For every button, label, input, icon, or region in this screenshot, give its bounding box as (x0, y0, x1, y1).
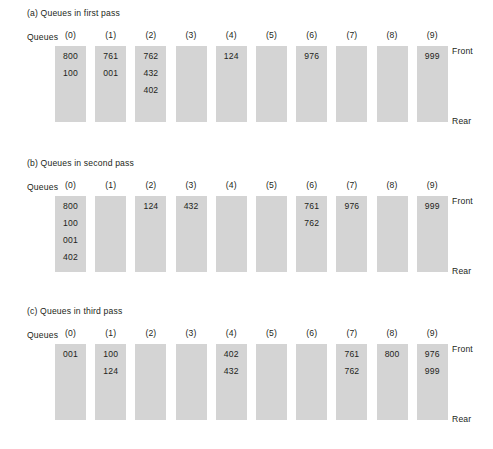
queue-column: (0)800100 (55, 28, 86, 122)
queue-column: (1) (95, 178, 126, 272)
queue-column-header: (5) (256, 178, 287, 196)
panel-caption-c: (c) Queues in third pass (27, 306, 122, 316)
queue-item: 999 (417, 363, 448, 380)
queue-bar (256, 344, 287, 420)
queue-column-header: (3) (176, 178, 207, 196)
queue-column: (4)402432 (216, 326, 247, 420)
queue-bar: 402432 (216, 344, 247, 420)
rear-label-c: Rear (452, 414, 471, 424)
queue-item: 432 (176, 198, 207, 215)
queue-bar (176, 344, 207, 420)
queue-column-header: (0) (55, 326, 86, 344)
queue-bar: 001 (55, 344, 86, 420)
queue-column-header: (2) (135, 326, 166, 344)
queue-column: (9)999 (417, 28, 448, 122)
queue-bar: 761001 (95, 46, 126, 122)
queue-column: (3) (176, 28, 207, 122)
front-label-b: Front (452, 196, 473, 206)
queue-row-c: (0)001(1)100124(2)(3)(4)402432(5)(6)(7)7… (55, 326, 447, 436)
queue-item: 402 (55, 249, 86, 266)
queue-column: (7)976 (336, 178, 367, 272)
queue-column: (7) (336, 28, 367, 122)
queue-item: 761 (95, 48, 126, 65)
queue-column: (8) (377, 28, 408, 122)
queue-column-header: (0) (55, 28, 86, 46)
queue-item: 762 (336, 363, 367, 380)
queue-column: (8) (377, 178, 408, 272)
queue-bar (135, 344, 166, 420)
queue-bar (256, 46, 287, 122)
queue-column-header: (7) (336, 28, 367, 46)
queue-column-header: (5) (256, 326, 287, 344)
queue-column-header: (9) (417, 326, 448, 344)
queue-column-header: (8) (377, 28, 408, 46)
queue-column: (5) (256, 178, 287, 272)
queue-column: (2) (135, 326, 166, 420)
radix-sort-queues-figure: (a) Queues in first pass Queues (0)80010… (0, 0, 493, 449)
queue-column: (3) (176, 326, 207, 420)
queue-item: 432 (135, 65, 166, 82)
row-label-b: Queues (27, 182, 58, 192)
panel-caption-a: (a) Queues in first pass (27, 8, 120, 18)
queue-item: 761 (296, 198, 327, 215)
queue-bar: 800100 (55, 46, 86, 122)
queue-column-header: (3) (176, 28, 207, 46)
queue-item: 124 (216, 48, 247, 65)
queue-item: 402 (135, 82, 166, 99)
queue-bar: 124 (216, 46, 247, 122)
queue-column: (1)761001 (95, 28, 126, 122)
rear-label-b: Rear (452, 266, 471, 276)
queue-item: 100 (55, 65, 86, 82)
queue-column: (4) (216, 178, 247, 272)
queue-item: 001 (55, 232, 86, 249)
queue-bar: 800 (377, 344, 408, 420)
queue-column-header: (7) (336, 326, 367, 344)
rear-label-a: Rear (452, 116, 471, 126)
queue-column-header: (4) (216, 326, 247, 344)
queue-bar (95, 196, 126, 272)
queue-bar: 761762 (336, 344, 367, 420)
queue-item: 402 (216, 346, 247, 363)
queue-bar (216, 196, 247, 272)
queue-column-header: (2) (135, 28, 166, 46)
queue-bar: 999 (417, 196, 448, 272)
queue-item: 976 (417, 346, 448, 363)
queue-column: (6) (296, 326, 327, 420)
queue-column-header: (1) (95, 326, 126, 344)
queue-bar: 999 (417, 46, 448, 122)
panel-caption-b: (b) Queues in second pass (27, 158, 134, 168)
row-label-c: Queues (27, 330, 58, 340)
queue-bar (256, 196, 287, 272)
front-label-c: Front (452, 344, 473, 354)
queue-column: (9)999 (417, 178, 448, 272)
queue-item: 124 (135, 198, 166, 215)
queue-column: (6)976 (296, 28, 327, 122)
queue-row-a: (0)800100(1)761001(2)762432402(3)(4)124(… (55, 28, 447, 138)
queue-column: (7)761762 (336, 326, 367, 420)
queue-item: 001 (95, 65, 126, 82)
queue-row-b: (0)800100001402(1)(2)124(3)432(4)(5)(6)7… (55, 178, 447, 288)
queue-column: (8)800 (377, 326, 408, 420)
queue-column: (6)761762 (296, 178, 327, 272)
queue-column-header: (0) (55, 178, 86, 196)
queue-item: 100 (95, 346, 126, 363)
queue-column-header: (1) (95, 28, 126, 46)
queue-column: (0)001 (55, 326, 86, 420)
queue-item: 976 (296, 48, 327, 65)
queue-bar (296, 344, 327, 420)
queue-bar: 762432402 (135, 46, 166, 122)
queue-bar (377, 46, 408, 122)
queue-column: (0)800100001402 (55, 178, 86, 272)
queue-column-header: (6) (296, 28, 327, 46)
queue-item: 800 (377, 346, 408, 363)
queue-column: (5) (256, 28, 287, 122)
queue-bar (176, 46, 207, 122)
queue-item: 100 (55, 215, 86, 232)
queue-column-header: (3) (176, 326, 207, 344)
queue-column-header: (1) (95, 178, 126, 196)
queue-bar: 124 (135, 196, 166, 272)
queue-item: 762 (296, 215, 327, 232)
queue-column: (9)976999 (417, 326, 448, 420)
queue-column: (2)762432402 (135, 28, 166, 122)
queue-column-header: (4) (216, 178, 247, 196)
